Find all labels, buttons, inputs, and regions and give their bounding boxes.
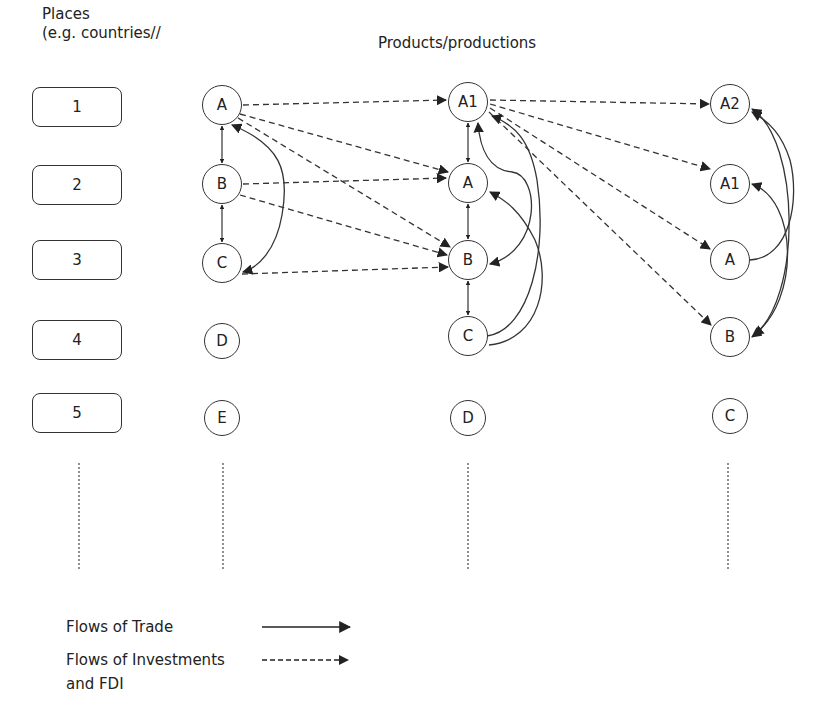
- trade-flows-col2-curves: [478, 116, 542, 345]
- place-box-2: 2: [32, 165, 122, 205]
- col1-node-e: E: [204, 400, 240, 436]
- place-box-4: 4: [32, 320, 122, 360]
- place-box-3: 3: [32, 240, 122, 280]
- col2-node-a1: A1: [448, 82, 488, 122]
- col2-node-d: D: [450, 400, 486, 436]
- continuation-lines: [79, 463, 728, 570]
- col1-node-a: A: [202, 85, 242, 125]
- col3-node-a1: A1: [710, 164, 750, 204]
- col2-node-c: C: [448, 316, 488, 356]
- trade-flows-col3-curves: [750, 109, 794, 337]
- col3-node-a: A: [710, 240, 750, 280]
- col1-node-b: B: [202, 164, 242, 204]
- investment-flows-col1-col2: [238, 100, 450, 274]
- col1-node-c: C: [202, 243, 242, 283]
- place-box-5: 5: [32, 393, 122, 433]
- place-box-1: 1: [32, 87, 122, 127]
- legend-investment-line2: and FDI: [66, 672, 225, 696]
- col2-node-a: A: [448, 163, 488, 203]
- legend-investment-line1: Flows of Investments: [66, 648, 225, 672]
- legend-investment-label: Flows of Investments and FDI: [66, 648, 225, 696]
- col1-node-d: D: [204, 323, 240, 359]
- col3-node-a2: A2: [710, 84, 750, 124]
- investment-flows-col2-col3: [489, 100, 711, 325]
- col2-node-b: B: [448, 240, 488, 280]
- legend-trade-label: Flows of Trade: [66, 615, 173, 639]
- col3-node-c: C: [712, 398, 748, 434]
- col3-node-b: B: [710, 317, 750, 357]
- trade-flow-col1-a-c: [232, 125, 284, 272]
